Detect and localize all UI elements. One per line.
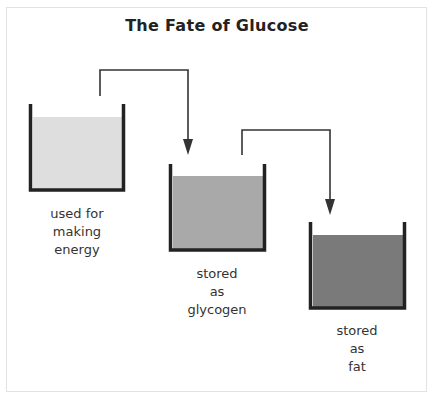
arrowhead-down-icon — [183, 139, 193, 155]
beaker-fat — [311, 222, 405, 308]
label-energy-line-3: energy — [17, 241, 137, 259]
beaker-glycogen — [171, 164, 265, 250]
label-energy-line-1: used for — [17, 205, 137, 223]
label-energy: used for making energy — [17, 205, 137, 259]
label-fat: stored as fat — [297, 322, 417, 376]
label-glycogen-line-3: glycogen — [157, 301, 277, 319]
arrowhead-down-icon — [325, 199, 335, 215]
label-fat-line-1: stored — [297, 322, 417, 340]
liquid-glycogen — [173, 176, 263, 249]
liquid-energy — [33, 117, 122, 189]
label-glycogen: stored as glycogen — [157, 265, 277, 319]
liquid-fat — [313, 235, 403, 307]
beaker-energy — [31, 104, 124, 190]
label-energy-line-2: making — [17, 223, 137, 241]
label-fat-line-2: as — [297, 340, 417, 358]
label-fat-line-3: fat — [297, 358, 417, 376]
label-glycogen-line-2: as — [157, 283, 277, 301]
label-glycogen-line-1: stored — [157, 265, 277, 283]
